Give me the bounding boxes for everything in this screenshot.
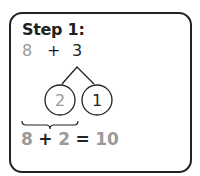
equation-term-b: 2 bbox=[58, 129, 70, 149]
equation-equals: = bbox=[75, 129, 89, 149]
part-right-label: 1 bbox=[92, 91, 102, 110]
make-ten-equation: 8 + 2 = 10 bbox=[21, 129, 119, 149]
part-left-label: 2 bbox=[55, 91, 65, 110]
bond-branches bbox=[62, 67, 94, 84]
grouping-brace bbox=[22, 121, 78, 129]
equation-sum: 10 bbox=[95, 129, 118, 149]
equation-plus: + bbox=[38, 129, 52, 149]
number-bond-diagram: 2 1 bbox=[0, 0, 200, 176]
equation-term-a: 8 bbox=[21, 129, 33, 149]
